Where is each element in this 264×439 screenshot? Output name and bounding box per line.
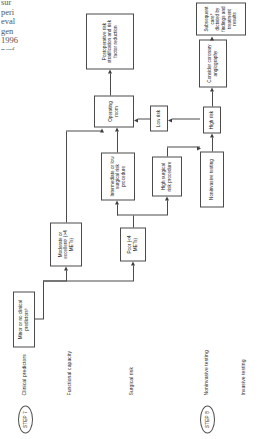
arrowhead-moderate-to-or (100, 128, 104, 132)
step-badge-step8: STEP 8 (200, 405, 215, 433)
node-poor-mets: Poor (<4 METs) (120, 227, 146, 261)
node-high-risk-procedure: High surgical risk procedure (152, 156, 182, 196)
arrowhead-to-intermediate-low (115, 200, 119, 204)
node-poor-label: Poor (<4 METs) (127, 230, 138, 258)
connector-intermediate-to-or (117, 131, 118, 152)
arrowhead-intermediate-to-or (115, 127, 119, 131)
row-label-functional-capacity: Functional capacity (66, 350, 72, 395)
node-subsequent-care-label: Subsequent care* dictated by findings an… (204, 5, 238, 32)
connector-lowrisk-to-or (138, 118, 150, 119)
node-subsequent-care: Subsequent care* dictated by findings an… (196, 2, 246, 35)
node-consider-coronary-angiography: Consider coronary angiography (199, 39, 227, 87)
arrowhead-highproc-to-noninvasive (197, 146, 201, 150)
node-operating-room-label: Operating room (108, 98, 119, 124)
node-minor-clinical-predictors: Minor or no clinical predictorsᵇ (13, 291, 35, 347)
arrowhead-to-poor (131, 261, 135, 265)
arrowhead-to-moderate (64, 266, 68, 270)
flowchart-canvas: STEP 7 STEP 8 Clinical predictors Functi… (0, 0, 264, 439)
node-consider-angio-label: Consider coronary angiography (207, 42, 218, 84)
connector-to-moderate (66, 270, 67, 281)
connector-split-down (43, 280, 133, 281)
row-label-surgical-risk: Surgical risk (128, 366, 134, 395)
row-label-clinical-predictors: Clinical predictors (21, 354, 27, 395)
node-intermediate-low-label: Intermediate or low surgical risk proced… (110, 155, 127, 197)
connector-poor-out (133, 215, 134, 227)
arrowhead-noninvasive-to-highrisk (210, 133, 214, 137)
row-label-noninvasive-testing: Noninvasive testing (203, 350, 209, 395)
connector-to-intermediate-low (117, 204, 118, 215)
node-low-risk-label: Low risk (156, 109, 162, 126)
step-badge-step7: STEP 7 (18, 405, 33, 433)
node-high-risk: High risk (203, 106, 221, 133)
connector-highproc-drop (167, 146, 200, 147)
connector-to-poor (133, 265, 134, 281)
connector-minor-down (35, 318, 43, 319)
node-moderate-excellent: Moderate or excellentᶜ (>4 METs) (50, 222, 82, 266)
connector-or-to-postoperative (110, 73, 111, 95)
node-postoperative-label: Postoperative risk stratification and ri… (102, 16, 119, 66)
node-operating-room: Operating room (94, 95, 134, 127)
node-high-risk-procedure-label: High surgical risk procedure (161, 159, 172, 193)
node-low-risk: Low risk (150, 105, 168, 131)
connector-noninvasive-to-lowrisk (172, 118, 200, 119)
connector-moderate-to-operating-room (66, 131, 67, 222)
node-moderate-label: Moderate or excellentᶜ (>4 METs) (58, 225, 75, 263)
connector-to-high-risk-procedure (167, 200, 168, 215)
connector-poor-split (117, 214, 167, 215)
row-label-invasive-testing: Invasive testing (240, 359, 246, 395)
arrowhead-highrisk-to-angio (210, 87, 214, 91)
node-intermediate-low-risk-procedure: Intermediate or low surgical risk proced… (101, 152, 135, 200)
connector-noninvasive-to-highrisk (212, 137, 213, 151)
node-minor-label: Minor or no clinical predictorsᵇ (18, 294, 29, 344)
figure-page: sur peri eval gen 1996 perf STEP 7 STEP … (0, 0, 264, 439)
connector-split-bar (43, 281, 44, 319)
arrowhead-or-to-postoperative (108, 69, 112, 73)
node-high-risk-label: High risk (209, 110, 215, 128)
arrowhead-angio-to-subsequent (210, 36, 214, 40)
arrowhead-lowrisk-to-or (134, 118, 138, 122)
step8-label: STEP 8 (205, 411, 210, 428)
node-postoperative-risk-stratification: Postoperative risk stratification and ri… (86, 13, 134, 69)
connector-moderate-drop (66, 130, 102, 131)
node-noninvasive-testing: Noninvasive testing (200, 151, 224, 207)
step7-label: STEP 7 (23, 411, 28, 428)
connector-highrisk-to-angio (212, 91, 213, 106)
connector-highproc-to-noninvasive (167, 147, 168, 156)
arrowhead-to-high-risk-procedure (165, 196, 169, 200)
arrowhead-noninvasive-to-lowrisk (168, 118, 172, 122)
node-noninvasive-testing-label: Noninvasive testing (209, 159, 215, 200)
